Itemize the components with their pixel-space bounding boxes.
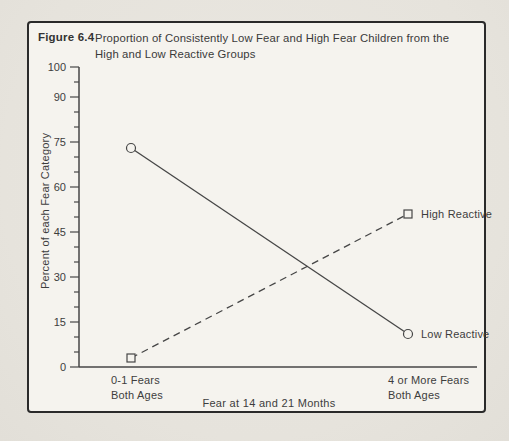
figure-box: Figure 6.4 Proportion of Consistently Lo… [27,21,486,413]
circle-marker-low-reactive [404,330,413,339]
y-axis-title: Percent of each Fear Category [39,133,51,289]
series-line-high-reactive [131,214,408,358]
y-tick-label: 15 [29,315,66,329]
legend-low-reactive: Low Reactive [421,326,489,342]
x-axis-title: Fear at 14 and 21 Months [202,397,335,409]
y-tick-label: 90 [29,90,66,104]
square-marker-high-reactive [404,210,412,218]
circle-marker-low-reactive [127,144,136,153]
x-category-label: 0-1 FearsBoth Ages [111,373,163,403]
scanned-page: Figure 6.4 Proportion of Consistently Lo… [0,0,509,441]
square-marker-high-reactive [127,354,135,362]
x-category-label: 4 or More FearsBoth Ages [388,373,469,403]
chart-area: 0153045607590100 Percent of each Fear Ca… [29,23,484,411]
series-line-low-reactive [131,148,408,334]
y-tick-label: 100 [29,60,66,74]
y-tick-label: 0 [29,360,66,374]
chart-canvas [29,23,484,411]
legend-high-reactive: High Reactive [421,206,492,222]
